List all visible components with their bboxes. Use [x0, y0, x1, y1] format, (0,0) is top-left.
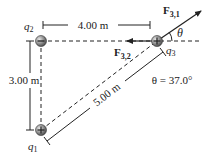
- force-label-f31: F3,1: [163, 4, 180, 19]
- angle-symbol: θ: [177, 26, 183, 40]
- angle-equation: θ = 37.0°: [152, 74, 193, 86]
- charge-q2: [36, 36, 47, 47]
- angle-arc: [169, 32, 172, 41]
- force-label-f32: F3,2: [114, 46, 131, 61]
- charge-force-diagram: 4.00 m 3.00 m 5.00 m F3,1 F3,2 θ θ = 37.…: [0, 0, 209, 158]
- charge-label-q1: q1: [28, 140, 38, 154]
- charge-label-q3: q3: [166, 44, 176, 58]
- dashed-line-q1-q3: [41, 41, 157, 130]
- dimension-label-diagonal: 5.00 m: [91, 80, 123, 108]
- charge-q3: [152, 36, 163, 47]
- charge-q1: [36, 125, 47, 136]
- dimension-label-horizontal: 4.00 m: [78, 19, 109, 31]
- charge-label-q2: q2: [24, 20, 34, 34]
- dimension-label-vertical: 3.00 m: [9, 74, 40, 86]
